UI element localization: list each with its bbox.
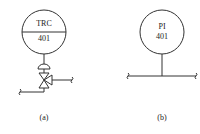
- actuator-icon: [38, 64, 50, 69]
- tag-401-b: 401: [152, 32, 172, 41]
- valve-lower-triangle: [39, 80, 49, 88]
- tag-trc: TRC: [34, 19, 54, 28]
- tag-pi: PI: [152, 22, 172, 31]
- caption-b: (b): [152, 113, 172, 122]
- caption-a: (a): [34, 113, 54, 122]
- tag-401-a: 401: [34, 34, 54, 43]
- valve-upper-triangle: [39, 73, 49, 80]
